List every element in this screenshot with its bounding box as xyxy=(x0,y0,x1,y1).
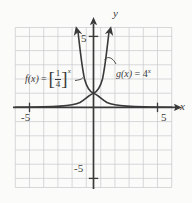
exponential-functions-graph: y x -5 5 5 -5 f(x) = [ 1 4 ] x g(x) = 4x xyxy=(0,0,192,203)
y-tick-label-pos5: 5 xyxy=(81,33,87,44)
y-axis-label: y xyxy=(113,8,118,19)
x-axis-label: x xyxy=(180,101,185,112)
function-label-f: f(x) = [ 1 4 ] x xyxy=(25,69,71,89)
f-name: f(x) xyxy=(25,74,39,84)
g-exponent: x xyxy=(148,67,151,75)
g-equals: = xyxy=(135,68,141,79)
f-equals: = xyxy=(41,74,47,84)
x-tick-label-neg5: -5 xyxy=(21,112,30,123)
x-tick-label-pos5: 5 xyxy=(161,112,167,123)
f-exponent: x xyxy=(68,68,71,75)
y-tick-label-neg5: -5 xyxy=(74,163,83,174)
graph-canvas xyxy=(0,0,192,203)
y-axis xyxy=(89,17,98,189)
curve-f xyxy=(74,26,172,107)
g-name: g(x) xyxy=(116,68,132,79)
function-label-g: g(x) = 4x xyxy=(116,68,151,79)
curve-g xyxy=(15,26,113,107)
